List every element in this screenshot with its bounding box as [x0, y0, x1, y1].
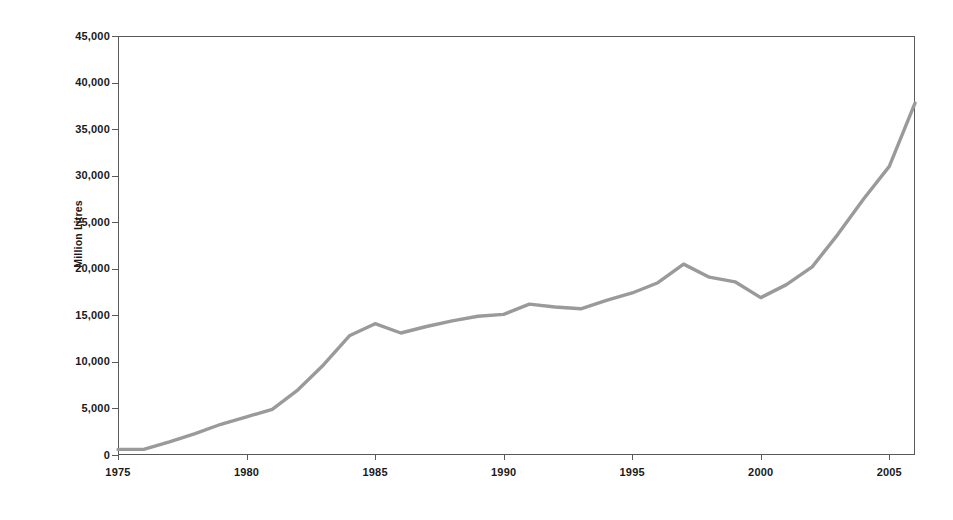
y-axis-tick-mark [112, 129, 118, 130]
x-axis-tick-mark [247, 455, 248, 460]
x-axis-tick-label: 1990 [474, 466, 534, 478]
x-axis-tick-label: 1975 [88, 466, 148, 478]
y-axis-tick-label: 0 [40, 450, 110, 461]
x-axis-tick-label: 1985 [345, 466, 405, 478]
y-axis-tick-label: 20,000 [40, 263, 110, 274]
y-axis-tick-label: 25,000 [40, 217, 110, 228]
y-axis-tick-mark [112, 408, 118, 409]
x-axis-tick-label: 1980 [217, 466, 277, 478]
x-axis-tick-mark [504, 455, 505, 460]
plot-canvas [118, 36, 915, 455]
y-axis-tick-label: 30,000 [40, 170, 110, 181]
x-axis-tick-mark [761, 455, 762, 460]
y-axis-tick-mark [112, 222, 118, 223]
x-axis-tick-mark [889, 455, 890, 460]
data-series-line [118, 103, 915, 449]
y-axis-tick-labels: 05,00010,00015,00020,00025,00030,00035,0… [38, 0, 110, 520]
y-axis-tick-mark [112, 36, 118, 37]
x-axis-tick-mark [375, 455, 376, 460]
x-axis-tick-label: 2000 [731, 466, 791, 478]
y-axis-tick-label: 40,000 [40, 77, 110, 88]
y-axis-tick-mark [112, 269, 118, 270]
y-axis-tick-label: 10,000 [40, 356, 110, 367]
y-axis-tick-mark [112, 83, 118, 84]
x-axis-tick-label: 2005 [859, 466, 919, 478]
y-axis-tick-label: 5,000 [40, 403, 110, 414]
x-axis-tick-label: 1995 [602, 466, 662, 478]
y-axis-tick-mark [112, 362, 118, 363]
line-chart: Million Litres 05,00010,00015,00020,0002… [0, 0, 953, 520]
y-axis-tick-label: 35,000 [40, 124, 110, 135]
y-axis-tick-mark [112, 315, 118, 316]
x-axis-tick-mark [118, 455, 119, 460]
y-axis-tick-label: 15,000 [40, 310, 110, 321]
y-axis-tick-mark [112, 176, 118, 177]
y-axis-tick-label: 45,000 [40, 31, 110, 42]
x-axis-tick-mark [632, 455, 633, 460]
